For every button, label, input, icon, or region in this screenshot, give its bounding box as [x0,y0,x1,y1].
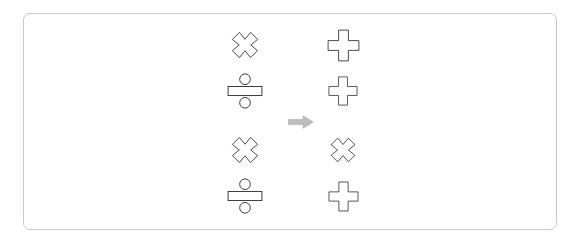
left-cell-row-4 [225,177,265,215]
multiply-icon [227,132,263,168]
multiply-icon [326,133,360,167]
divide-icon [225,177,265,215]
plus-icon [326,28,361,63]
left-cell-row-3 [227,132,263,168]
right-cell-row-1 [326,28,361,63]
right-cell-row-3 [326,133,360,167]
right-cell-row-2 [327,75,359,107]
plus-icon [327,180,360,213]
symbol-puzzle [0,0,581,243]
left-cell-row-1 [227,27,263,63]
right-cell-row-4 [327,180,360,213]
right-arrow-icon [288,113,314,130]
left-cell-row-2 [225,72,265,110]
screenshot-canvas [0,0,581,243]
divide-icon [225,72,265,110]
plus-icon [327,75,359,107]
multiply-icon [227,27,263,63]
